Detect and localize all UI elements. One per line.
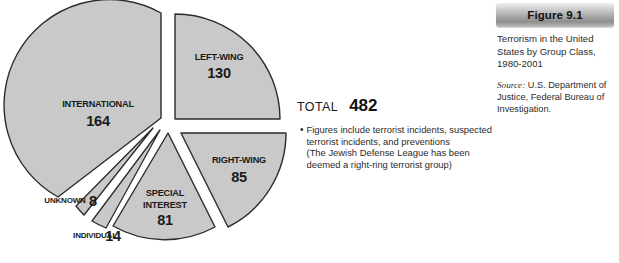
bullet-icon: • [300, 124, 304, 170]
footnote-line-3: (The Jewish Defense League has been [307, 147, 470, 158]
footnote-line-4: deemed a right-ring terrorist group) [307, 159, 452, 170]
figure-page: LEFT-WING 130 RIGHT-WING 85 SPECIAL INTE… [0, 0, 619, 263]
pie-slice-special-interest-value: 81 [157, 212, 173, 228]
pie-slice-special-interest-label-2: INTEREST [143, 200, 187, 210]
footnote-lines: Figures include terrorist incidents, sus… [307, 124, 493, 170]
pie-slice-international-value: 164 [86, 113, 110, 129]
pie-slice-right-wing-label: RIGHT-WING [212, 155, 266, 165]
pie-slice-special-interest-label-1: SPECIAL [146, 188, 185, 198]
figure-side-panel: Figure 9.1 Terrorism in the United State… [492, 0, 619, 263]
total-value: 482 [349, 96, 377, 116]
pie-slice-unknown-value: 8 [89, 193, 97, 209]
pie-slice-left-wing-label: LEFT-WING [195, 52, 244, 62]
figure-number-banner: Figure 9.1 [496, 3, 614, 27]
pie-slice-left-wing-value: 130 [207, 65, 231, 81]
footnote-block: • Figures include terrorist incidents, s… [300, 124, 482, 170]
total-label: TOTAL [297, 100, 338, 114]
total-block: TOTAL 482 [297, 96, 378, 116]
pie-slice-international-label: INTERNATIONAL [62, 99, 134, 109]
pie-slice-right-wing-value: 85 [231, 169, 247, 185]
figure-number-label: Figure 9.1 [527, 9, 582, 21]
figure-source-label: Source: [497, 80, 525, 90]
footnote-line-2: terrorist incidents, and preventions [307, 136, 450, 147]
pie-slice-individual-value: 14 [105, 228, 121, 244]
figure-caption: Terrorism in the United States by Group … [497, 33, 617, 71]
pie-slice-unknown-label: UNKNOWN [44, 196, 86, 205]
pie-slice-left-wing[interactable]: LEFT-WING 130 [175, 14, 280, 119]
figure-source: Source: U.S. Department of Justice, Fede… [497, 79, 619, 116]
footnote-line-1: Figures include terrorist incidents, sus… [307, 124, 493, 135]
